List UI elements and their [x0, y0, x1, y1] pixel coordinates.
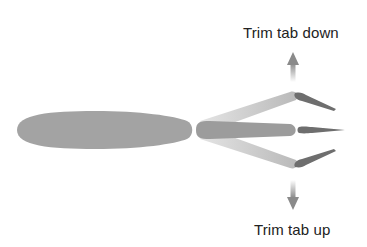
stabilizer-airfoil: [17, 111, 192, 149]
trim-tab-upper: [294, 93, 336, 111]
trim-tab-neutral: [298, 127, 346, 134]
arrow-up-icon: [287, 52, 299, 82]
arrow-down-icon: [287, 180, 299, 210]
trim-tab-lower: [294, 149, 336, 167]
label-trim-tab-down: Trim tab down: [243, 24, 339, 41]
elevator-neutral: [196, 121, 296, 139]
label-trim-tab-up: Trim tab up: [254, 221, 330, 238]
